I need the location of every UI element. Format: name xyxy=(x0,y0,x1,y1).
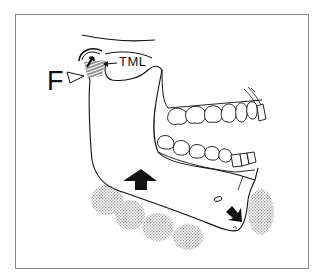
tml-hatched-region xyxy=(84,60,106,78)
condyle xyxy=(79,49,106,78)
upward-force-arrow-icon xyxy=(123,169,157,190)
down-right-arrow-icon xyxy=(226,206,242,222)
mandible-diagram xyxy=(0,0,327,279)
label-f: F xyxy=(47,68,64,95)
chin-mark xyxy=(233,227,236,229)
stippled-soft-tissue xyxy=(91,185,274,250)
label-tml: TML xyxy=(119,55,147,69)
f-triangle-pointer-icon xyxy=(67,72,84,83)
mental-foramen xyxy=(214,196,223,202)
lower-teeth xyxy=(157,136,256,173)
maxilla-posterior xyxy=(162,70,168,108)
symphysis-mark xyxy=(238,176,243,190)
upper-teeth xyxy=(168,100,266,125)
skull-base-line xyxy=(82,35,155,41)
